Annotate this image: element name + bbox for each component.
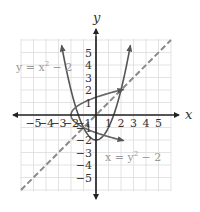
x-tick-label: 2 [118, 117, 125, 130]
x-tick-label: 1 [105, 117, 112, 130]
equation-label-parabola-right: x = y2 − 2 [105, 150, 161, 164]
graph: −5−4−3−2−11234554321−1−2−3−4−5 y x y = x… [0, 0, 200, 212]
y-tick-label: −3 [76, 147, 92, 160]
y-tick-label: 5 [85, 47, 92, 60]
y-tick-label: −5 [76, 172, 92, 185]
y-tick-label: −2 [76, 134, 92, 147]
y-tick-label: 2 [85, 84, 92, 97]
x-tick-label: 5 [155, 117, 162, 130]
equation-label-parabola-up: y = x2 − 2 [15, 60, 72, 74]
x-axis-label: x [185, 107, 193, 122]
y-tick-label: 1 [85, 97, 92, 110]
x-tick-label: 3 [130, 117, 137, 130]
y-axis-label: y [92, 10, 101, 25]
y-tick-label: −4 [76, 159, 92, 172]
x-tick-label: 4 [143, 117, 150, 130]
y-tick-label: 3 [85, 72, 92, 85]
y-tick-label: 4 [85, 59, 92, 72]
y-tick-label: −1 [76, 122, 92, 135]
